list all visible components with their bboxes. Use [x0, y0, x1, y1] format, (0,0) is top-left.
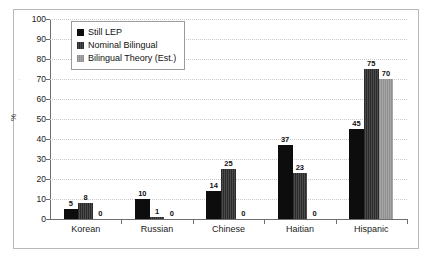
x-axis-category-label: Russian [141, 224, 174, 234]
x-axis-tick-mark [336, 219, 337, 224]
x-axis-tick-mark [193, 219, 194, 224]
bar-group: 37230 [264, 19, 335, 219]
bar-value-label: 45 [352, 120, 360, 128]
x-axis-tick-mark [121, 219, 122, 224]
bar[interactable]: 70 [379, 79, 394, 219]
legend-label: Nominal Bilingual [88, 41, 158, 50]
bar-value-label: 23 [296, 164, 304, 172]
bar-value-label: 5 [69, 200, 73, 208]
legend-swatch-icon [77, 42, 84, 49]
x-axis-category-label: Hispanic [354, 224, 389, 234]
bar-value-label: 0 [170, 210, 174, 218]
legend-label: Bilingual Theory (Est.) [88, 54, 176, 63]
bar[interactable]: 25 [221, 169, 236, 219]
x-axis-category-label: Haitian [286, 224, 314, 234]
bar-value-label: 0 [313, 210, 317, 218]
bar-value-label: 25 [224, 160, 232, 168]
bar[interactable]: 8 [78, 203, 93, 219]
bar-value-label: 75 [367, 60, 375, 68]
legend-item[interactable]: Still LEP [77, 26, 176, 39]
bar-value-label: 1 [155, 208, 159, 216]
chart-legend: Still LEPNominal BilingualBilingual Theo… [71, 21, 185, 70]
bar-value-label: 0 [241, 210, 245, 218]
legend-swatch-icon [77, 29, 84, 36]
x-axis-category-label: Korean [71, 224, 100, 234]
bar-value-label: 70 [382, 70, 390, 78]
bar[interactable]: 1 [150, 217, 165, 219]
bar-value-label: 8 [84, 194, 88, 202]
y-axis-tick-marks [14, 19, 50, 219]
legend-label: Still LEP [88, 28, 122, 37]
bar-value-label: 10 [138, 190, 146, 198]
bar[interactable]: 14 [206, 191, 221, 219]
bar[interactable]: 23 [293, 173, 308, 219]
x-axis-category-labels: KoreanRussianChineseHaitianHispanic [50, 224, 407, 242]
bar-value-label: 37 [281, 136, 289, 144]
bar-value-label: 0 [98, 210, 102, 218]
bar[interactable]: 37 [278, 145, 293, 219]
bar-group: 14250 [193, 19, 264, 219]
x-axis-tick-mark [264, 219, 265, 224]
bar[interactable]: 75 [364, 69, 379, 219]
bar[interactable]: 5 [64, 209, 79, 219]
legend-item[interactable]: Bilingual Theory (Est.) [77, 52, 176, 65]
bar[interactable]: 45 [349, 129, 364, 219]
x-axis-category-label: Chinese [212, 224, 245, 234]
bar[interactable]: 10 [135, 199, 150, 219]
legend-item[interactable]: Nominal Bilingual [77, 39, 176, 52]
bar-group: 457570 [336, 19, 407, 219]
bar-value-label: 14 [210, 182, 218, 190]
legend-swatch-icon [77, 55, 84, 62]
chart-frame: · % 1009080706050403020100 5801010142503… [13, 9, 419, 249]
x-axis-baseline [50, 219, 407, 220]
x-axis-tick-mark [407, 219, 408, 224]
